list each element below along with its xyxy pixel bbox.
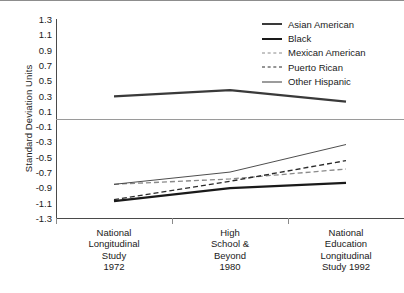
legend-item-label: Other Hispanic — [288, 76, 351, 87]
y-tick-label: -1.1 — [36, 198, 52, 207]
x-axis-category-labels: NationalLongitudinalStudy1972HighSchool … — [56, 227, 404, 287]
x-axis-tick — [172, 218, 173, 224]
chart-figure: Standard Deviation Units 1.31.10.90.70.5… — [0, 0, 404, 293]
x-category-label-line: School & — [172, 238, 288, 249]
x-category-label-line: High — [172, 227, 288, 238]
legend-line-swatch-icon — [262, 19, 282, 29]
legend-line-swatch-icon — [262, 62, 282, 72]
x-category-label-line: National — [56, 227, 172, 238]
x-category-label-line: Study 1992 — [288, 261, 404, 272]
series-line — [114, 183, 346, 201]
legend-item[interactable]: Mexican American — [262, 46, 404, 60]
y-tick-label: -0.1 — [36, 122, 52, 131]
y-tick-label: -0.9 — [36, 183, 52, 192]
x-category-label-line: Study — [56, 250, 172, 261]
series-line — [114, 161, 346, 200]
x-category-label: HighSchool &Beyond1980 — [172, 227, 288, 273]
legend-item[interactable]: Puerto Rican — [262, 60, 404, 74]
legend-item[interactable]: Other Hispanic — [262, 75, 404, 89]
y-tick-label: -0.7 — [36, 168, 52, 177]
series-line — [114, 169, 346, 184]
y-tick-label: 0.1 — [39, 106, 52, 115]
y-tick-label: -1.3 — [36, 214, 52, 223]
zero-reference-line — [56, 119, 404, 120]
x-category-label-line: 1972 — [56, 261, 172, 272]
legend-line-swatch-icon — [262, 48, 282, 58]
legend-item-label: Asian American — [288, 19, 354, 30]
x-category-label-line: Longitudinal — [56, 238, 172, 249]
x-category-label-line: Longitudinal — [288, 250, 404, 261]
legend-line-swatch-icon — [262, 34, 282, 44]
y-tick-label: 1.1 — [39, 30, 52, 39]
legend-line-swatch-icon — [262, 77, 282, 87]
legend-item-label: Mexican American — [288, 47, 366, 58]
chart-legend: Asian AmericanBlackMexican AmericanPuert… — [262, 17, 404, 89]
y-tick-label: 0.5 — [39, 76, 52, 85]
x-category-label-line: Beyond — [172, 250, 288, 261]
y-tick-label: -0.3 — [36, 137, 52, 146]
y-tick-label: 0.9 — [39, 45, 52, 54]
x-category-label: NationalEducationLongitudinalStudy 1992 — [288, 227, 404, 273]
y-axis-tick-labels: 1.31.10.90.70.50.30.1-0.1-0.3-0.5-0.7-0.… — [26, 19, 52, 218]
x-category-label-line: National — [288, 227, 404, 238]
y-tick-label: 0.3 — [39, 91, 52, 100]
series-line — [114, 90, 346, 101]
y-tick-label: -0.5 — [36, 152, 52, 161]
legend-item[interactable]: Black — [262, 31, 404, 45]
y-tick-label: 0.7 — [39, 60, 52, 69]
x-category-label: NationalLongitudinalStudy1972 — [56, 227, 172, 273]
legend-item[interactable]: Asian American — [262, 17, 404, 31]
x-category-label-line: Education — [288, 238, 404, 249]
legend-item-label: Puerto Rican — [288, 62, 343, 73]
x-category-label-line: 1980 — [172, 261, 288, 272]
y-tick-label: 1.3 — [39, 15, 52, 24]
x-axis-tick — [56, 218, 57, 224]
legend-item-label: Black — [288, 33, 311, 44]
x-axis-tick — [288, 218, 289, 224]
